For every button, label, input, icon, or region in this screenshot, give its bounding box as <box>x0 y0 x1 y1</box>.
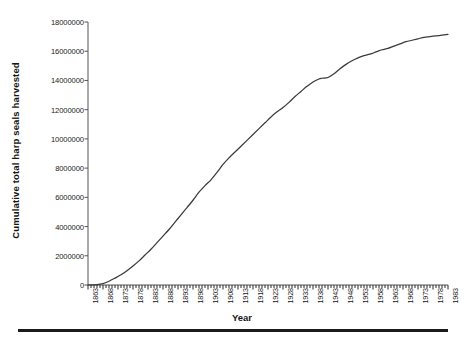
figure-canvas: Cumulative total harp seals harvested 02… <box>0 0 466 344</box>
x-tick-label: 1893 <box>181 288 190 304</box>
x-tick-label: 1948 <box>346 288 355 304</box>
x-tick-label: 1903 <box>211 288 220 304</box>
x-axis-tick-labels: 1863186818731878188318881893189819031908… <box>88 288 452 332</box>
y-tick-label: 0 <box>80 281 84 290</box>
x-tick-label: 1863 <box>91 288 100 304</box>
x-tick-label: 1933 <box>301 288 310 304</box>
x-tick-label: 1878 <box>136 288 145 304</box>
x-tick-label: 1958 <box>376 288 385 304</box>
y-tick-label: 2000000 <box>55 251 84 260</box>
x-tick-label: 1928 <box>286 288 295 304</box>
x-tick-label: 1968 <box>406 288 415 304</box>
x-tick-label: 1978 <box>436 288 445 304</box>
x-tick-label: 1918 <box>256 288 265 304</box>
y-axis-ticks <box>85 22 89 285</box>
x-tick-label: 1923 <box>271 288 280 304</box>
x-tick-label: 1898 <box>196 288 205 304</box>
axis-lines <box>88 22 448 285</box>
x-tick-label: 1883 <box>151 288 160 304</box>
y-tick-label: 10000000 <box>51 134 84 143</box>
chart-figure: Cumulative total harp seals harvested 02… <box>0 0 466 344</box>
x-tick-label: 1943 <box>331 288 340 304</box>
y-tick-label: 4000000 <box>55 222 84 231</box>
x-tick-label: 1983 <box>451 288 460 304</box>
y-tick-label: 14000000 <box>51 76 84 85</box>
y-axis-tick-labels: 0200000040000006000000800000010000000120… <box>28 0 84 300</box>
x-axis-title-container: Year <box>0 312 466 323</box>
plot-area <box>88 22 448 285</box>
x-tick-label: 1963 <box>391 288 400 304</box>
x-tick-label: 1888 <box>166 288 175 304</box>
x-tick-label: 1873 <box>121 288 130 304</box>
x-tick-label: 1908 <box>226 288 235 304</box>
y-tick-label: 18000000 <box>51 18 84 27</box>
line-chart-svg <box>88 22 448 285</box>
x-tick-label: 1953 <box>361 288 370 304</box>
x-tick-label: 1938 <box>316 288 325 304</box>
x-tick-label: 1973 <box>421 288 430 304</box>
x-axis-title: Year <box>232 312 252 323</box>
y-tick-label: 16000000 <box>51 47 84 56</box>
y-tick-label: 12000000 <box>51 105 84 114</box>
x-tick-label: 1913 <box>241 288 250 304</box>
data-series-line <box>88 34 448 285</box>
bottom-divider-rule <box>18 329 448 332</box>
y-axis-title: Cumulative total harp seals harvested <box>10 62 21 239</box>
y-axis-title-container: Cumulative total harp seals harvested <box>0 0 30 300</box>
y-tick-label: 8000000 <box>55 164 84 173</box>
y-tick-label: 6000000 <box>55 193 84 202</box>
x-tick-label: 1868 <box>106 288 115 304</box>
